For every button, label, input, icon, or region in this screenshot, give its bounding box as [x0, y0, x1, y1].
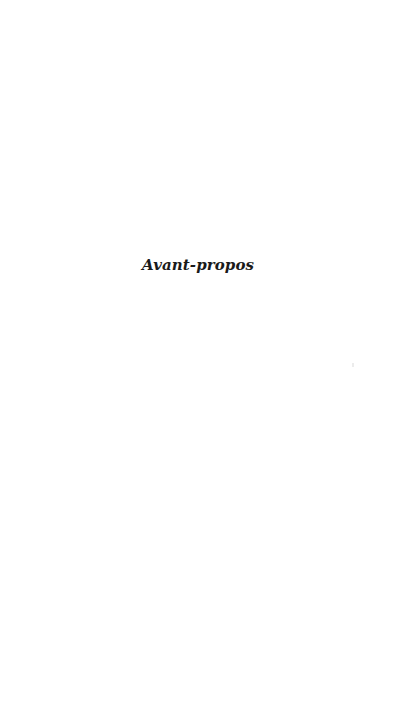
- book-page: Avant-propos: [0, 0, 416, 716]
- section-title: Avant-propos: [142, 256, 254, 274]
- scan-artifact: [352, 363, 354, 367]
